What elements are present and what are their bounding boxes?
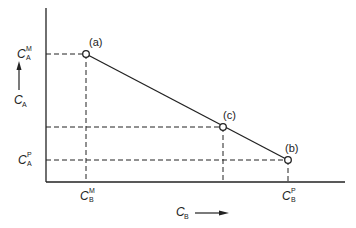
tick-ca-m: C M A	[17, 45, 32, 61]
operating-line-diagram: (a) (c) (b) C M A C P A C M B C P B C A …	[0, 0, 356, 228]
svg-text:P: P	[291, 187, 296, 194]
svg-text:C: C	[80, 189, 89, 203]
svg-text:M: M	[26, 45, 32, 52]
tick-cb-m: C M B	[80, 187, 95, 203]
point-b-label: (b)	[285, 142, 298, 154]
svg-text:C: C	[18, 153, 27, 167]
svg-text:M: M	[89, 187, 95, 194]
point-c-label: (c)	[223, 109, 236, 121]
point-a-label: (a)	[89, 36, 102, 48]
svg-text:A: A	[22, 101, 27, 108]
svg-text:P: P	[27, 151, 32, 158]
tick-ca-p: C P A	[18, 151, 32, 167]
point-b	[285, 157, 292, 164]
svg-text:B: B	[291, 196, 296, 203]
x-axis-label: C B	[176, 205, 189, 220]
x-arrow-head-icon	[219, 211, 229, 216]
operating-line	[86, 54, 288, 160]
point-c	[220, 124, 227, 131]
svg-text:B: B	[89, 196, 94, 203]
svg-text:A: A	[26, 54, 31, 61]
svg-text:C: C	[282, 189, 291, 203]
tick-cb-p: C P B	[282, 187, 296, 203]
y-arrow-head-icon	[17, 61, 22, 70]
svg-text:C: C	[17, 47, 26, 61]
y-axis-label: C A	[14, 93, 27, 108]
svg-text:A: A	[27, 160, 32, 167]
svg-text:B: B	[184, 213, 189, 220]
point-a	[83, 51, 90, 58]
